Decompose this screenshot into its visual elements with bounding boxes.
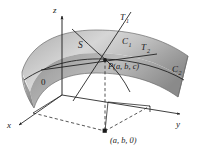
z-axis-label: z bbox=[52, 5, 57, 15]
surface-label-S: S bbox=[78, 40, 83, 50]
tangent-2-subscript: 2 bbox=[147, 48, 150, 54]
y-axis-line bbox=[62, 95, 180, 114]
origin-label: 0 bbox=[41, 77, 46, 87]
y-axis: y bbox=[62, 95, 180, 129]
tangent-1-subscript: 1 bbox=[126, 18, 129, 24]
label-T1: T 1 bbox=[120, 12, 129, 24]
point-abo-label: (a, b, 0) bbox=[110, 136, 137, 145]
dashed-from-x-axis bbox=[33, 113, 105, 131]
curve-1-subscript: 1 bbox=[129, 42, 132, 48]
point-P-marker bbox=[103, 58, 107, 62]
figure-canvas: z x y 0 bbox=[0, 0, 198, 148]
x-axis-line bbox=[19, 95, 62, 125]
point-P-label: P(a, b, c) bbox=[107, 62, 139, 71]
surface-tangent-diagram: z x y 0 bbox=[0, 0, 198, 148]
rail-connector bbox=[105, 102, 108, 131]
y-axis-label: y bbox=[175, 119, 180, 129]
point-abo-marker bbox=[103, 129, 107, 133]
curve-2-subscript: 2 bbox=[179, 70, 182, 76]
dashed-to-y-axis bbox=[105, 106, 150, 131]
plane-rails bbox=[33, 95, 150, 131]
x-axis-label: x bbox=[6, 120, 11, 130]
